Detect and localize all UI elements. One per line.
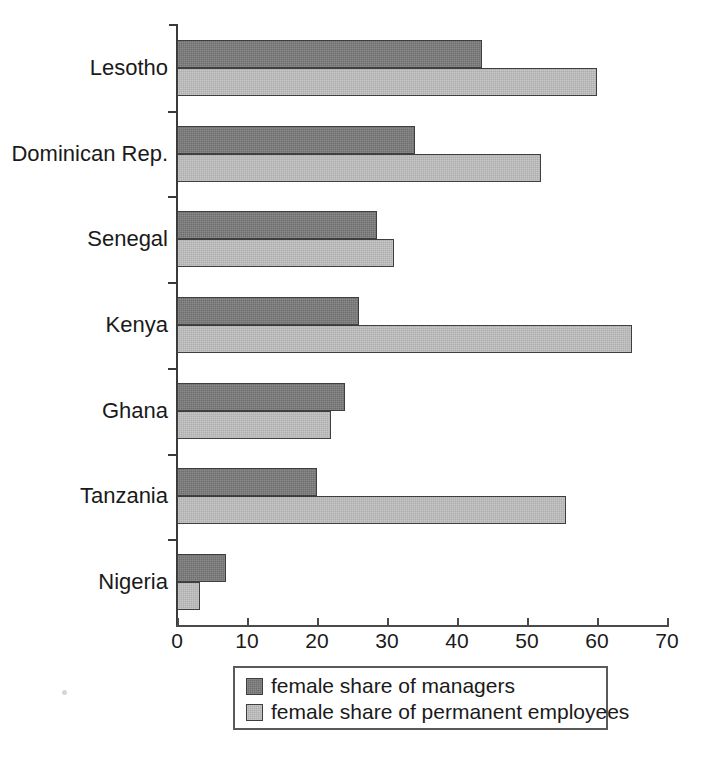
x-axis-tick-label: 10 bbox=[217, 629, 277, 653]
legend-swatch-permanent-employees-icon bbox=[246, 704, 263, 721]
horizontal-bar-chart: LesothoDominican Rep.SenegalKenyaGhanaTa… bbox=[0, 0, 701, 760]
x-axis-tick bbox=[247, 618, 249, 627]
category-label-senegal: Senegal bbox=[9, 227, 177, 251]
x-axis-tick-label: 30 bbox=[357, 629, 417, 653]
bar-dominican-rep-permanent bbox=[177, 154, 541, 182]
plot-area bbox=[177, 25, 667, 625]
bar-ghana-permanent bbox=[177, 411, 331, 439]
chart-legend: female share of managers female share of… bbox=[233, 666, 608, 730]
bar-senegal-permanent bbox=[177, 239, 394, 267]
x-axis-tick-label: 20 bbox=[287, 629, 347, 653]
category-label-dominican-rep: Dominican Rep. bbox=[9, 142, 177, 166]
x-axis-tick-label: 40 bbox=[427, 629, 487, 653]
x-axis-tick bbox=[177, 618, 179, 627]
legend-label-managers: female share of managers bbox=[271, 674, 515, 698]
scan-speck bbox=[62, 690, 67, 695]
legend-item-managers: female share of managers bbox=[246, 673, 606, 699]
category-axis-labels: LesothoDominican Rep.SenegalKenyaGhanaTa… bbox=[0, 25, 177, 625]
category-label-tanzania: Tanzania bbox=[9, 484, 177, 508]
bar-ghana-managers bbox=[177, 383, 345, 411]
bar-lesotho-managers bbox=[177, 40, 482, 68]
category-label-lesotho: Lesotho bbox=[9, 56, 177, 80]
legend-item-permanent-employees: female share of permanent employees bbox=[246, 699, 606, 725]
bar-tanzania-permanent bbox=[177, 496, 566, 524]
x-axis-tick-label: 50 bbox=[497, 629, 557, 653]
bar-kenya-managers bbox=[177, 297, 359, 325]
x-axis-tick-label: 60 bbox=[567, 629, 627, 653]
bar-lesotho-permanent bbox=[177, 68, 597, 96]
x-axis-tick-label: 70 bbox=[637, 629, 697, 653]
legend-label-permanent-employees: female share of permanent employees bbox=[271, 700, 629, 724]
x-axis-tick bbox=[667, 618, 669, 627]
x-axis-line bbox=[176, 625, 667, 627]
legend-swatch-managers-icon bbox=[246, 678, 263, 695]
bar-tanzania-managers bbox=[177, 468, 317, 496]
bar-nigeria-permanent bbox=[177, 582, 200, 610]
category-label-ghana: Ghana bbox=[9, 399, 177, 423]
category-label-kenya: Kenya bbox=[9, 313, 177, 337]
x-axis-tick bbox=[387, 618, 389, 627]
x-axis-tick-label: 0 bbox=[147, 629, 207, 653]
bar-kenya-permanent bbox=[177, 325, 632, 353]
category-label-nigeria: Nigeria bbox=[9, 570, 177, 594]
x-axis-tick bbox=[597, 618, 599, 627]
x-axis-tick bbox=[317, 618, 319, 627]
x-axis-tick bbox=[527, 618, 529, 627]
bar-dominican-rep-managers bbox=[177, 126, 415, 154]
bar-nigeria-managers bbox=[177, 554, 226, 582]
x-axis-tick bbox=[457, 618, 459, 627]
bar-senegal-managers bbox=[177, 211, 377, 239]
